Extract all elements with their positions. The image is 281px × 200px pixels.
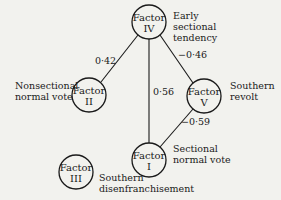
- description-factor-iii: Southern disenfranchisement: [99, 172, 194, 194]
- node-numeral: V: [199, 97, 208, 108]
- description-factor-iv: Early sectional tendency: [173, 10, 217, 43]
- weight-v-i: −0·59: [181, 116, 210, 127]
- description-line: Early: [173, 10, 217, 21]
- weight-iv-ii: 0·42: [95, 55, 116, 66]
- description-line: Southern: [99, 172, 194, 183]
- description-line: disenfranchisement: [99, 183, 194, 194]
- node-title: Factor: [60, 162, 93, 173]
- weight-iv-i: 0·56: [153, 86, 174, 97]
- weight-iv-v: −0·46: [178, 49, 207, 60]
- node-numeral: I: [147, 161, 151, 172]
- description-line: tendency: [173, 32, 217, 43]
- edge-v-i: [160, 109, 193, 147]
- description-line: sectional: [173, 21, 217, 32]
- description-line: Southern: [230, 80, 275, 91]
- node-numeral: II: [85, 96, 93, 107]
- node-numeral: III: [70, 173, 82, 184]
- description-line: Sectional: [173, 143, 231, 154]
- description-line: normal vote: [173, 154, 231, 165]
- node-numeral: IV: [143, 23, 155, 34]
- node-title: Factor: [133, 150, 166, 161]
- node-factor-iv: Factor IV: [132, 5, 166, 39]
- description-factor-v: Southern revolt: [230, 80, 275, 102]
- description-factor-ii: Nonsectional normal vote: [15, 80, 78, 102]
- description-factor-i: Sectional normal vote: [173, 143, 231, 165]
- node-factor-v: Factor V: [187, 79, 221, 113]
- description-line: Nonsectional: [15, 80, 78, 91]
- node-title: Factor: [188, 86, 221, 97]
- description-line: revolt: [230, 91, 275, 102]
- node-factor-iii: Factor III: [59, 155, 93, 189]
- description-line: normal vote: [15, 91, 78, 102]
- node-title: Factor: [133, 12, 166, 23]
